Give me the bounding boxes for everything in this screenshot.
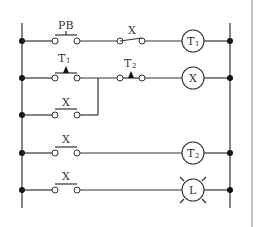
junction-dot <box>227 150 233 156</box>
coil-t2: T 2 <box>182 142 204 164</box>
x-label: X <box>128 24 136 37</box>
pb-label: PB <box>58 19 74 32</box>
svg-text:X: X <box>62 170 70 183</box>
svg-text:T: T <box>124 57 132 70</box>
rung-2: T 1 T 2 X <box>19 52 233 115</box>
svg-text:X: X <box>62 96 70 109</box>
svg-text:X: X <box>189 72 197 85</box>
svg-text:X: X <box>62 133 70 146</box>
svg-text:2: 2 <box>195 152 199 160</box>
junction-dot <box>227 38 233 44</box>
branch-x-seal-in: X <box>19 96 98 118</box>
rung-3: X T 2 <box>19 133 233 164</box>
timer-contact-t2: T 2 <box>117 57 145 81</box>
junction-dot <box>227 187 233 193</box>
timer-contact-t1: T 1 <box>52 52 80 81</box>
rung-1: PB X T 1 <box>19 19 233 52</box>
ladder-diagram: PB X T 1 T 1 <box>0 0 256 227</box>
coil-x: X <box>182 67 204 89</box>
svg-text:1: 1 <box>66 57 70 65</box>
lamp-l: L <box>180 177 206 203</box>
contact-x: X <box>117 24 145 44</box>
svg-text:T: T <box>187 35 195 48</box>
pushbutton-contact-pb: PB <box>52 19 80 44</box>
svg-text:T: T <box>58 52 66 65</box>
svg-text:L: L <box>189 184 197 197</box>
rung-4: X L <box>19 170 233 203</box>
svg-text:2: 2 <box>132 62 136 70</box>
svg-text:1: 1 <box>195 40 199 48</box>
junction-dot <box>227 75 233 81</box>
svg-text:T: T <box>187 147 195 160</box>
coil-t1: T 1 <box>182 30 204 52</box>
